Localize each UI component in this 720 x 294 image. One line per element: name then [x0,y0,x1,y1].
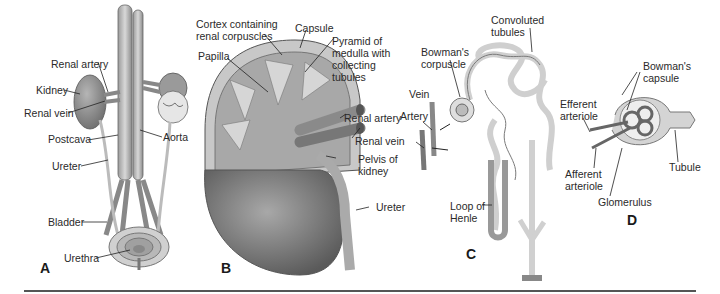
label-renal-artery: Renal artery [51,58,108,70]
panel-letter-b: B [221,260,231,276]
label-glomerulus: Glomerulus [598,196,652,208]
label-convoluted-line2: tubules [491,26,525,38]
label-papilla: Papilla [198,50,230,62]
label-bladder: Bladder [48,216,84,228]
label-artery: Artery [400,110,428,122]
label-capsule: Capsule [295,22,334,34]
label-renal-artery-b: Renal artery [344,112,401,124]
label-bowmans-capsule-line2: capsule [643,72,679,84]
label-bowmans-capsule-line1: Bowman's [643,60,691,72]
label-tubule: Tubule [669,161,701,173]
label-afferent-line2: arteriole [565,180,603,192]
label-cortex-line2: renal corpuscles [196,30,272,42]
label-pelvis-line1: Pelvis of [358,153,398,165]
figure-bottom-rule [24,290,696,292]
label-ureter: Ureter [52,160,81,172]
label-efferent-line2: arteriole [560,110,598,122]
label-urethra: Urethra [64,252,99,264]
label-kidney: Kidney [36,84,68,96]
panel-letter-c: C [466,246,476,262]
label-loop-line2: Henle [450,212,477,224]
label-pyramid-line1: Pyramid of [332,35,382,47]
label-postcava: Postcava [48,133,91,145]
label-pyramid-line4: tubules [332,71,366,83]
label-pyramid-line3: collecting [332,59,376,71]
panel-letter-d: D [627,212,637,228]
label-cortex-line1: Cortex containing [196,18,278,30]
label-ureter-b: Ureter [376,201,405,213]
label-renal-vein-b: Renal vein [355,135,405,147]
panel-letter-a: A [40,260,50,276]
label-aorta: Aorta [163,131,188,143]
label-pelvis-line2: kidney [358,165,388,177]
label-renal-vein: Renal vein [24,107,74,119]
label-convoluted-line1: Convoluted [491,14,544,26]
label-vein: Vein [409,88,429,100]
label-pyramid-line2: medulla with [332,47,390,59]
label-bowmans-corpuscle-line2: corpuscle [421,58,466,70]
label-loop-line1: Loop of [450,200,485,212]
label-bowmans-corpuscle-line1: Bowman's [421,46,469,58]
label-efferent-line1: Efferent [560,98,597,110]
label-afferent-line1: Afferent [565,168,602,180]
